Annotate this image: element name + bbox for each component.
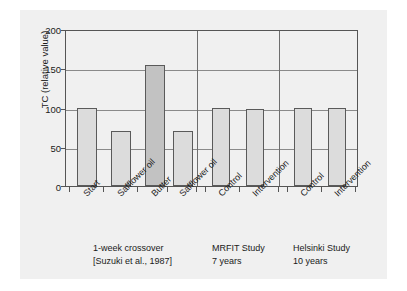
x-tick-mark-6: [239, 187, 240, 192]
group-caption-crossover-line2: [Suzuki et al., 1987]: [93, 255, 172, 268]
x-tick-mark-2: [137, 187, 138, 192]
y-axis-tick-labels: 200 150 100 50 0: [28, 30, 61, 187]
group-caption-crossover-line1: 1-week crossover: [93, 243, 164, 253]
y-tick-label-50: 50: [31, 144, 61, 154]
y-tick-label-0: 0: [31, 183, 61, 193]
x-tick-mark-1: [103, 187, 104, 192]
group-caption-helsinki: Helsinki Study 10 years: [293, 242, 350, 267]
x-tick-mark-0: [69, 187, 70, 192]
bar-helsinki-intervention: [328, 108, 346, 187]
x-tick-mark-10: [355, 187, 356, 192]
group-caption-helsinki-line1: Helsinki Study: [293, 243, 350, 253]
bar-mrfit-intervention: [246, 109, 264, 186]
group-caption-mrfit: MRFIT Study 7 years: [212, 242, 265, 267]
bar-start: [77, 108, 97, 187]
bar-mrfit-control: [212, 108, 230, 187]
x-tick-mark-9: [321, 187, 322, 192]
x-tick-mark-7: [278, 187, 279, 192]
group-caption-mrfit-line2: 7 years: [212, 255, 265, 268]
group-caption-crossover: 1-week crossover [Suzuki et al., 1987]: [93, 242, 172, 267]
x-tick-mark-3: [167, 187, 168, 192]
gridline-150: [66, 70, 357, 71]
x-tick-mark-8: [287, 187, 288, 192]
x-tick-mark-4: [196, 187, 197, 192]
group-caption-mrfit-line1: MRFIT Study: [212, 243, 265, 253]
figure-panel: TC (relative value) 200 150 100 50 0: [20, 10, 387, 279]
bar-helsinki-control: [294, 108, 312, 187]
group-captions: 1-week crossover [Suzuki et al., 1987] M…: [65, 242, 365, 276]
x-tick-mark-5: [205, 187, 206, 192]
figure-root: TC (relative value) 200 150 100 50 0: [0, 0, 407, 291]
group-separator-1: [197, 31, 198, 186]
group-caption-helsinki-line2: 10 years: [293, 255, 350, 268]
y-tick-label-200: 200: [31, 26, 61, 36]
x-axis-category-labels: Start Safflower oil Butter Safflower oil…: [65, 192, 365, 247]
y-tick-label-100: 100: [31, 105, 61, 115]
y-tick-label-150: 150: [31, 65, 61, 75]
